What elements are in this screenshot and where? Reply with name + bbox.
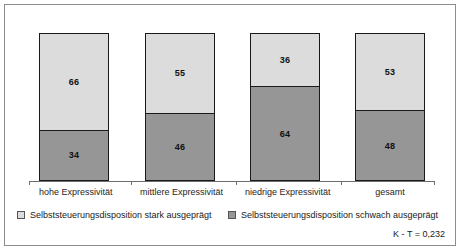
stacked-bar[interactable]: 66 34 <box>39 33 109 181</box>
bar-value-label-stark: 66 <box>69 77 79 87</box>
legend-swatch-icon-schwach <box>228 211 236 219</box>
stacked-bar[interactable]: 53 48 <box>355 33 425 181</box>
x-axis-tick <box>29 181 30 185</box>
x-axis-label-gesamt: gesamt <box>355 187 425 197</box>
x-axis-label-niedrige-expressivitaet: niedrige Expressivität <box>245 187 325 197</box>
x-axis-label-hohe-expressivitaet: hohe Expressivität <box>39 187 109 197</box>
x-axis-tick <box>341 181 342 185</box>
bar-segment-stark: 55 <box>146 34 214 114</box>
bar-segment-stark: 53 <box>356 34 424 111</box>
bar-segment-schwach: 34 <box>40 131 108 180</box>
stacked-bar[interactable]: 36 64 <box>250 33 320 181</box>
bar-value-label-schwach: 46 <box>175 142 185 152</box>
bar-segment-stark: 66 <box>40 34 108 131</box>
bar-segment-schwach: 64 <box>251 87 319 180</box>
bar-group-niedrige-expressivitaet: 36 64 <box>250 33 320 181</box>
bar-value-label-schwach: 48 <box>385 141 395 151</box>
chart-frame: 66 34 55 46 36 <box>4 4 456 246</box>
bar-value-label-stark: 36 <box>280 55 290 65</box>
stacked-bar[interactable]: 55 46 <box>145 33 215 181</box>
bar-segment-stark: 36 <box>251 34 319 87</box>
x-axis-tick <box>434 181 435 185</box>
bar-group-gesamt: 53 48 <box>355 33 425 181</box>
chart-legend: Selbststeuerungsdisposition stark ausgep… <box>17 210 447 226</box>
bar-group-hohe-expressivitaet: 66 34 <box>39 33 109 181</box>
x-axis-line <box>29 181 435 182</box>
x-axis-tick <box>131 181 132 185</box>
x-axis-label-mittlere-expressivitaet: mittlere Expressivität <box>140 187 220 197</box>
legend-swatch-icon-stark <box>17 211 25 219</box>
legend-label-schwach: Selbststeuerungsdisposition schwach ausg… <box>241 210 438 220</box>
legend-item-stark[interactable]: Selbststeuerungsdisposition stark ausgep… <box>17 210 212 220</box>
bar-value-label-stark: 55 <box>175 68 185 78</box>
x-axis-labels: hohe Expressivität mittlere Expressivitä… <box>29 187 439 203</box>
bar-value-label-stark: 53 <box>385 67 395 77</box>
kendall-tau-annotation: K - T = 0,232 <box>393 229 445 239</box>
bar-value-label-schwach: 64 <box>280 129 290 139</box>
bar-group-mittlere-expressivitaet: 55 46 <box>145 33 215 181</box>
legend-item-schwach[interactable]: Selbststeuerungsdisposition schwach ausg… <box>228 210 438 220</box>
x-axis-tick <box>236 181 237 185</box>
bar-segment-schwach: 48 <box>356 111 424 180</box>
plot-area: 66 34 55 46 36 <box>29 21 439 181</box>
legend-label-stark: Selbststeuerungsdisposition stark ausgep… <box>30 210 212 220</box>
bar-value-label-schwach: 34 <box>69 150 79 160</box>
bar-segment-schwach: 46 <box>146 114 214 180</box>
